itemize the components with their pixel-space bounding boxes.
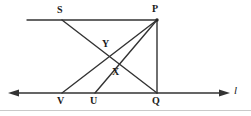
point-label-u: U	[90, 96, 97, 106]
segment-u-to-p	[95, 20, 157, 93]
line-l-left-arrowhead	[8, 90, 19, 97]
page-footer-rule	[0, 110, 251, 111]
point-label-y: Y	[102, 39, 109, 49]
point-label-p: P	[152, 4, 158, 14]
line-l-right-arrowhead	[219, 90, 230, 97]
point-label-q: Q	[152, 96, 160, 106]
figure-canvas	[0, 0, 251, 116]
vertex-dot-p	[155, 18, 158, 21]
point-label-x: X	[112, 67, 119, 77]
geometry-figure: S P Y X V U Q l	[0, 0, 251, 116]
point-label-v: V	[57, 96, 64, 106]
point-label-s: S	[57, 5, 63, 15]
line-label-l: l	[234, 85, 237, 96]
